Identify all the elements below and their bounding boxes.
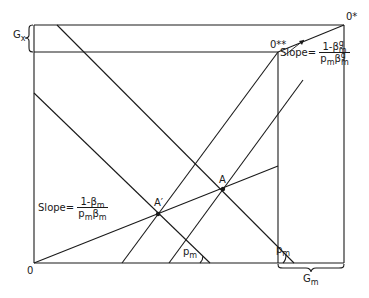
gm-brace (278, 264, 344, 272)
gm-label: Gm (303, 274, 319, 284)
point-a-prime-dot (156, 212, 160, 216)
angle-arc-1 (200, 256, 203, 263)
pm-angle-label-2: pm (276, 245, 290, 255)
point-a-label: A (219, 175, 226, 185)
origin-star-label: 0* (346, 12, 357, 22)
lower-budget-line (34, 93, 210, 263)
point-a-prime-label: A′ (154, 198, 163, 208)
slope-label-left: Slope= 1-βm pmβm (38, 197, 108, 219)
pm-angle-label-1: pm (183, 247, 197, 257)
slope-label-right: Slope= 1-βgm pmβgm (280, 42, 350, 64)
upper-budget-line (57, 25, 294, 263)
rising-line-left (122, 52, 278, 263)
point-a-dot (221, 187, 225, 191)
diagram-canvas: 0 0* 0** Gx Gm A′ A pm pm Slope= 1-βm pm… (0, 0, 369, 298)
gx-label: Gx (13, 30, 25, 40)
origin-label: 0 (27, 266, 33, 276)
gx-brace (25, 25, 33, 52)
